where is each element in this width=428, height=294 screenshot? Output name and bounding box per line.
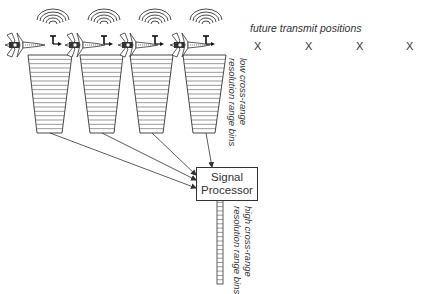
high-res-bins-label-line1: high cross-range xyxy=(243,206,254,294)
antenna-icon xyxy=(50,36,62,46)
high-res-bins-group xyxy=(217,198,223,284)
future-position-marker-4: X xyxy=(406,40,413,52)
low-res-bins-label: low cross-range resolution range bins xyxy=(227,58,249,146)
low-res-bins-group xyxy=(28,55,226,133)
future-transmit-positions-label: future transmit positions xyxy=(250,22,361,34)
signal-arrow-1 xyxy=(50,133,196,188)
radar-wave-icon xyxy=(139,9,171,24)
low-res-bin-stack-2 xyxy=(80,55,123,133)
high-res-bins-label: high cross-range resolution range bins xyxy=(232,206,254,294)
low-res-bin-stack-1 xyxy=(28,55,72,133)
low-res-bins-label-line2: resolution range bins xyxy=(227,58,238,146)
signal-processor-label-line2: Processor xyxy=(201,184,253,197)
signal-arrow-2 xyxy=(102,133,196,180)
future-position-marker-1: X xyxy=(254,40,261,52)
future-position-marker-2: X xyxy=(305,40,312,52)
signal-arrow-4 xyxy=(206,133,212,167)
arrows-group xyxy=(50,133,212,188)
future-position-marker-3: X xyxy=(356,40,363,52)
low-res-bin-stack-3 xyxy=(130,55,173,133)
diagram-canvas: future transmit positions XXXX low cross… xyxy=(0,0,428,294)
aircraft-group xyxy=(5,33,210,57)
low-res-bin-stack-4 xyxy=(183,55,226,133)
jet-aircraft-icon xyxy=(65,33,105,57)
low-res-bins-label-line1: low cross-range xyxy=(238,58,249,146)
radar-waves-group xyxy=(37,9,222,46)
high-res-bins-label-line2: resolution range bins xyxy=(232,206,243,294)
radar-wave-icon xyxy=(190,9,222,24)
diagram-svg xyxy=(0,0,428,294)
signal-processor-box: Signal Processor xyxy=(196,167,258,201)
signal-processor-label-line1: Signal xyxy=(211,171,243,184)
jet-aircraft-icon xyxy=(5,33,45,57)
radar-wave-icon xyxy=(37,9,69,24)
radar-wave-icon xyxy=(88,9,120,24)
